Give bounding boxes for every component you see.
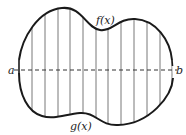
label-b: b: [176, 64, 183, 77]
right-boundary: [172, 60, 173, 66]
region-diagram: a b f(x) g(x): [0, 0, 186, 135]
label-f-of-x: f(x): [95, 14, 115, 27]
label-g-of-x: g(x): [70, 120, 92, 133]
label-a: a: [8, 64, 15, 77]
